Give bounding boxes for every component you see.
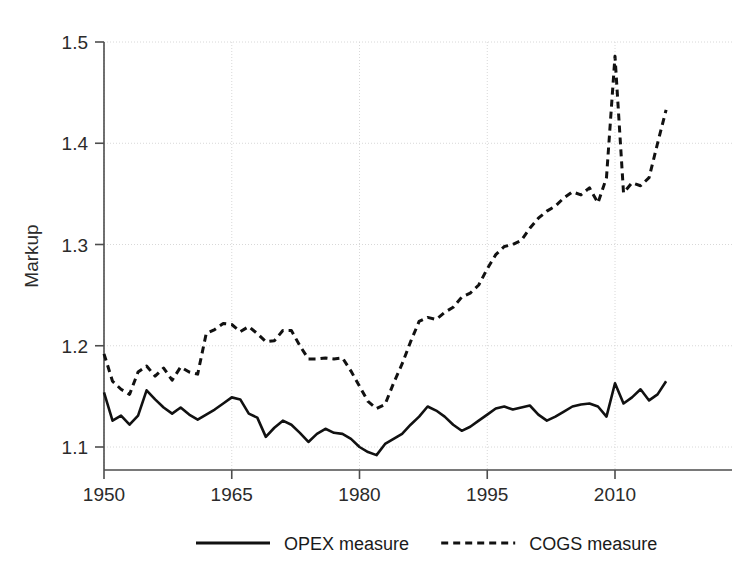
y-tick-label: 1.1 bbox=[62, 437, 88, 458]
y-axis-title: Markup bbox=[21, 224, 42, 287]
legend-label-opex: OPEX measure bbox=[284, 534, 409, 554]
x-tick-label: 1965 bbox=[211, 484, 253, 505]
x-tick-label: 2010 bbox=[594, 484, 636, 505]
y-tick-label: 1.4 bbox=[62, 133, 89, 154]
chart-canvas: 1.11.21.31.41.519501965198019952010 Mark… bbox=[0, 0, 748, 572]
markup-chart-figure: 1.11.21.31.41.519501965198019952010 Mark… bbox=[0, 0, 748, 572]
x-tick-label: 1950 bbox=[83, 484, 125, 505]
axis-titles: Markup bbox=[21, 224, 42, 287]
y-tick-label: 1.2 bbox=[62, 336, 88, 357]
y-tick-label: 1.3 bbox=[62, 235, 88, 256]
x-tick-label: 1995 bbox=[466, 484, 508, 505]
x-tick-label: 1980 bbox=[338, 484, 380, 505]
y-tick-label: 1.5 bbox=[62, 32, 88, 53]
legend-label-cogs: COGS measure bbox=[529, 534, 657, 554]
